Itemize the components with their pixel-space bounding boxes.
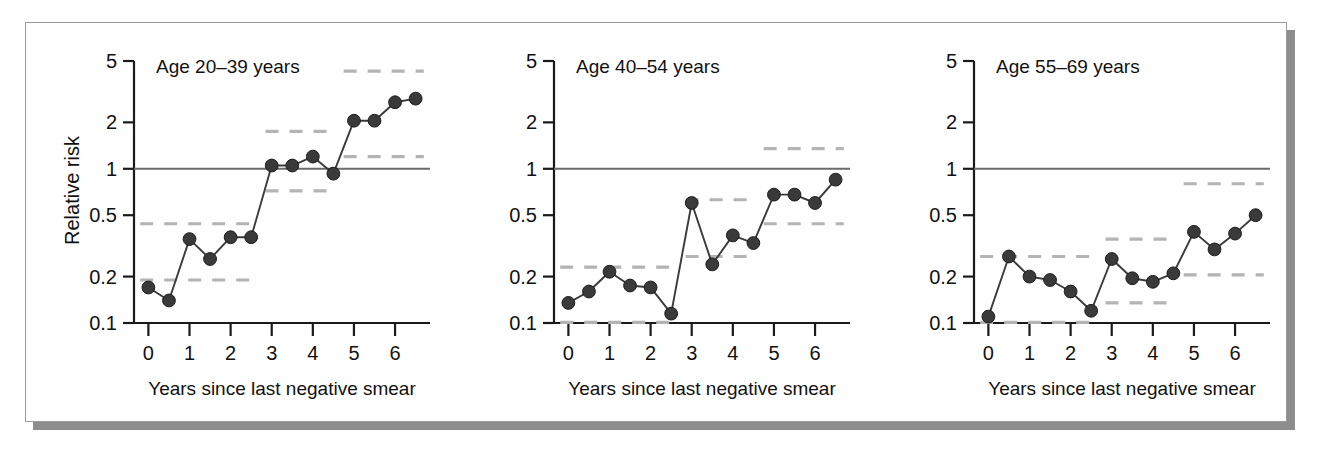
x-axis-title: Years since last negative smear <box>148 378 416 399</box>
y-tick-label: 0.5 <box>929 204 957 226</box>
data-point-marker <box>603 265 616 278</box>
data-point-marker <box>1023 270 1036 283</box>
data-point-marker <box>809 197 822 210</box>
data-point-marker <box>685 197 698 210</box>
y-tick-label: 1 <box>526 158 537 180</box>
panel-container: 5210.50.20.10123456Age 20–39 yearsYears … <box>26 23 1286 421</box>
panel-title: Age 40–54 years <box>576 56 720 77</box>
data-point-marker <box>562 297 575 310</box>
x-tick-label: 1 <box>1024 342 1035 364</box>
data-point-marker <box>368 114 381 127</box>
chart-svg-2: 5210.50.20.10123456Age 55–69 yearsYears … <box>866 23 1286 421</box>
y-tick-label: 0.5 <box>509 204 537 226</box>
data-point-marker <box>726 229 739 242</box>
y-tick-label: 0.1 <box>509 312 537 334</box>
panel-age-55-69: 5210.50.20.10123456Age 55–69 yearsYears … <box>866 23 1286 421</box>
y-tick-label: 0.2 <box>509 266 537 288</box>
x-tick-label: 0 <box>983 342 994 364</box>
data-point-marker <box>1229 227 1242 240</box>
data-point-marker <box>348 114 361 127</box>
x-tick-label: 0 <box>563 342 574 364</box>
data-point-marker <box>1167 267 1180 280</box>
panel-title: Age 20–39 years <box>156 56 300 77</box>
data-point-marker <box>1064 285 1077 298</box>
data-point-marker <box>286 159 299 172</box>
data-point-marker <box>1249 209 1262 222</box>
x-tick-label: 1 <box>184 342 195 364</box>
y-tick-label: 0.1 <box>89 312 117 334</box>
data-point-marker <box>982 310 995 323</box>
x-tick-label: 3 <box>686 342 697 364</box>
data-series-line <box>148 99 415 301</box>
data-point-marker <box>747 237 760 250</box>
data-point-marker <box>306 150 319 163</box>
x-axis-title: Years since last negative smear <box>568 378 836 399</box>
data-point-marker <box>245 231 258 244</box>
x-tick-label: 2 <box>645 342 656 364</box>
data-point-marker <box>224 231 237 244</box>
figure-root: Relative risk 5210.50.20.10123456Age 20–… <box>0 0 1320 455</box>
y-tick-label: 1 <box>946 158 957 180</box>
data-point-marker <box>583 285 596 298</box>
data-point-marker <box>204 253 217 266</box>
data-point-marker <box>1208 243 1221 256</box>
data-point-marker <box>665 307 678 320</box>
figure-frame: Relative risk 5210.50.20.10123456Age 20–… <box>25 22 1287 422</box>
x-tick-label: 2 <box>1065 342 1076 364</box>
data-point-marker <box>829 173 842 186</box>
chart-svg-1: 5210.50.20.10123456Age 40–54 yearsYears … <box>446 23 866 421</box>
x-tick-label: 2 <box>225 342 236 364</box>
data-point-marker <box>1105 253 1118 266</box>
panel-title: Age 55–69 years <box>996 56 1140 77</box>
data-point-marker <box>1003 250 1016 263</box>
data-series-line <box>988 215 1255 316</box>
panel-age-40-54: 5210.50.20.10123456Age 40–54 yearsYears … <box>446 23 866 421</box>
x-tick-label: 5 <box>1188 342 1199 364</box>
x-tick-label: 4 <box>1147 342 1158 364</box>
data-point-marker <box>706 258 719 271</box>
data-point-marker <box>409 92 422 105</box>
y-tick-label: 0.1 <box>929 312 957 334</box>
x-tick-label: 6 <box>1229 342 1240 364</box>
panel-age-20-39: 5210.50.20.10123456Age 20–39 yearsYears … <box>26 23 446 421</box>
data-point-marker <box>1085 304 1098 317</box>
data-point-marker <box>183 233 196 246</box>
x-tick-label: 4 <box>727 342 738 364</box>
y-tick-label: 2 <box>946 111 957 133</box>
data-point-marker <box>142 281 155 294</box>
x-tick-label: 0 <box>143 342 154 364</box>
data-point-marker <box>1146 275 1159 288</box>
data-point-marker <box>788 188 801 201</box>
y-tick-label: 1 <box>106 158 117 180</box>
y-tick-label: 0.2 <box>89 266 117 288</box>
y-tick-label: 5 <box>946 50 957 72</box>
data-point-marker <box>389 96 402 109</box>
x-tick-label: 5 <box>348 342 359 364</box>
data-point-marker <box>1044 274 1057 287</box>
chart-svg-0: 5210.50.20.10123456Age 20–39 yearsYears … <box>26 23 446 421</box>
y-tick-label: 0.5 <box>89 204 117 226</box>
data-point-marker <box>1188 225 1201 238</box>
x-tick-label: 1 <box>604 342 615 364</box>
y-tick-label: 0.2 <box>929 266 957 288</box>
data-point-marker <box>1126 272 1139 285</box>
x-tick-label: 5 <box>768 342 779 364</box>
data-point-marker <box>163 294 176 307</box>
data-point-marker <box>644 281 657 294</box>
y-tick-label: 2 <box>526 111 537 133</box>
y-tick-label: 5 <box>106 50 117 72</box>
data-point-marker <box>768 188 781 201</box>
x-tick-label: 3 <box>266 342 277 364</box>
data-point-marker <box>265 159 278 172</box>
x-tick-label: 6 <box>389 342 400 364</box>
data-point-marker <box>624 279 637 292</box>
x-axis-title: Years since last negative smear <box>988 378 1256 399</box>
data-point-marker <box>327 167 340 180</box>
x-tick-label: 6 <box>809 342 820 364</box>
x-tick-label: 4 <box>307 342 318 364</box>
x-tick-label: 3 <box>1106 342 1117 364</box>
y-tick-label: 2 <box>106 111 117 133</box>
y-tick-label: 5 <box>526 50 537 72</box>
